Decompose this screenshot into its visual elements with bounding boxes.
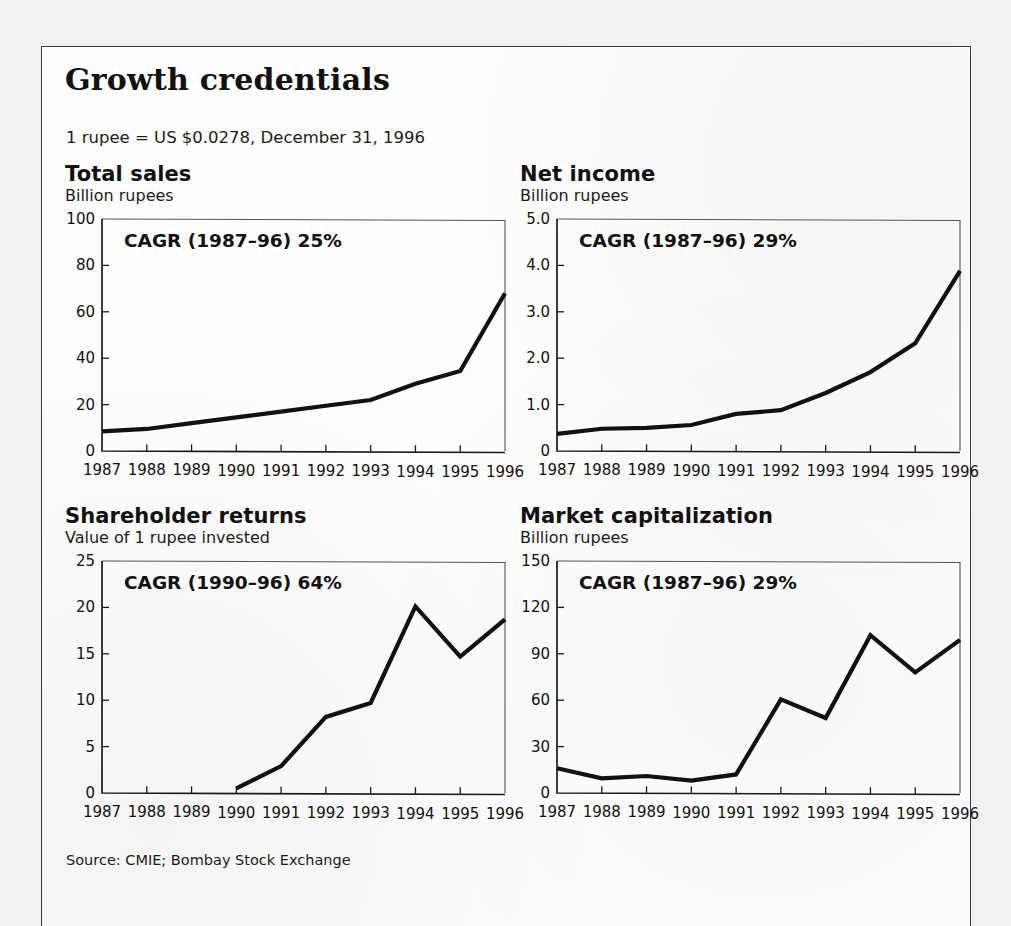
y-tick-label: 15 xyxy=(76,645,95,663)
x-tick-label: 1989 xyxy=(627,462,665,480)
x-tick-label: 1987 xyxy=(538,461,576,479)
x-tick-label: 1989 xyxy=(627,804,665,822)
chart-subtitle-net-income: Billion rupees xyxy=(520,187,982,205)
y-tick-label: 40 xyxy=(76,350,95,368)
chart-title-net-income: Net income xyxy=(520,163,982,185)
x-tick-label: 1991 xyxy=(262,804,300,822)
x-tick-label: 1990 xyxy=(217,804,255,822)
cagr-annotation: CAGR (1987–96) 29% xyxy=(579,230,797,251)
y-tick-label: 0 xyxy=(540,442,550,460)
y-tick-label: 1.0 xyxy=(526,396,550,414)
x-tick-label: 1992 xyxy=(307,805,345,823)
chart-panel-total-sales: Total sales Billion rupees 0204060801001… xyxy=(65,163,527,485)
x-tick-label: 1988 xyxy=(583,804,621,822)
y-tick-label: 20 xyxy=(76,599,95,617)
x-tick-label: 1990 xyxy=(672,804,710,822)
x-tick-label: 1988 xyxy=(128,462,166,480)
source-note: Source: CMIE; Bombay Stock Exchange xyxy=(66,852,351,868)
plot-area-total-sales: 0204060801001987198819891990199119921993… xyxy=(65,211,527,485)
cagr-annotation: CAGR (1987–96) 29% xyxy=(579,572,797,593)
y-tick-label: 4.0 xyxy=(526,257,550,275)
chart-subtitle-shareholder-returns: Value of 1 rupee invested xyxy=(65,529,527,547)
x-tick-label: 1994 xyxy=(396,805,434,823)
data-series-line xyxy=(102,294,505,432)
page-title: Growth credentials xyxy=(65,62,390,97)
x-tick-label: 1996 xyxy=(486,463,524,481)
chart-title-market-capitalization: Market capitalization xyxy=(520,505,982,527)
x-tick-label: 1988 xyxy=(128,804,166,822)
y-tick-label: 0 xyxy=(85,784,95,802)
x-tick-label: 1996 xyxy=(941,805,979,823)
chart-title-shareholder-returns: Shareholder returns xyxy=(65,505,527,527)
y-tick-label: 90 xyxy=(531,645,550,663)
y-tick-label: 60 xyxy=(76,303,95,321)
data-series-line xyxy=(557,271,960,434)
chart-panel-shareholder-returns: Shareholder returns Value of 1 rupee inv… xyxy=(65,505,527,827)
x-tick-label: 1991 xyxy=(717,462,755,480)
y-tick-label: 5.0 xyxy=(526,210,550,228)
x-tick-label: 1991 xyxy=(717,804,755,822)
x-tick-label: 1990 xyxy=(672,462,710,480)
x-tick-label: 1992 xyxy=(762,463,800,481)
x-tick-label: 1990 xyxy=(217,462,255,480)
y-tick-label: 10 xyxy=(76,692,95,710)
x-tick-label: 1996 xyxy=(486,805,524,823)
x-tick-label: 1996 xyxy=(941,463,979,481)
data-series-line xyxy=(236,607,505,789)
y-tick-label: 60 xyxy=(531,692,550,710)
x-tick-label: 1995 xyxy=(441,463,479,481)
cagr-annotation: CAGR (1990–96) 64% xyxy=(124,572,342,593)
y-tick-label: 0 xyxy=(540,784,550,802)
y-tick-label: 3.0 xyxy=(526,303,550,321)
y-tick-label: 150 xyxy=(521,552,550,570)
y-tick-label: 5 xyxy=(85,738,95,756)
chart-subtitle-total-sales: Billion rupees xyxy=(65,187,527,205)
x-tick-label: 1987 xyxy=(83,461,121,479)
x-tick-label: 1994 xyxy=(851,463,889,481)
x-tick-label: 1991 xyxy=(262,462,300,480)
y-tick-label: 120 xyxy=(521,599,550,617)
y-tick-label: 30 xyxy=(531,738,550,756)
x-tick-label: 1987 xyxy=(538,803,576,821)
y-tick-label: 2.0 xyxy=(526,350,550,368)
x-tick-label: 1992 xyxy=(762,805,800,823)
cagr-annotation: CAGR (1987–96) 25% xyxy=(124,230,342,251)
chart-panel-net-income: Net income Billion rupees 01.02.03.04.05… xyxy=(520,163,982,485)
x-tick-label: 1992 xyxy=(307,463,345,481)
y-tick-label: 25 xyxy=(76,552,95,570)
x-tick-label: 1994 xyxy=(851,805,889,823)
y-tick-label: 0 xyxy=(85,442,95,460)
chart-subtitle-market-capitalization: Billion rupees xyxy=(520,529,982,547)
x-tick-label: 1988 xyxy=(583,462,621,480)
y-tick-label: 100 xyxy=(66,210,95,228)
plot-area-market-capitalization: 0306090120150198719881989199019911992199… xyxy=(520,553,982,827)
data-series-line xyxy=(557,636,960,781)
x-tick-label: 1993 xyxy=(352,463,390,481)
x-tick-label: 1993 xyxy=(807,463,845,481)
x-tick-label: 1989 xyxy=(172,804,210,822)
chart-title-total-sales: Total sales xyxy=(65,163,527,185)
exchange-rate-note: 1 rupee = US $0.0278, December 31, 1996 xyxy=(66,128,425,147)
chart-panel-market-capitalization: Market capitalization Billion rupees 030… xyxy=(520,505,982,827)
y-tick-label: 80 xyxy=(76,257,95,275)
x-tick-label: 1995 xyxy=(441,805,479,823)
plot-area-net-income: 01.02.03.04.05.0198719881989199019911992… xyxy=(520,211,982,485)
y-tick-label: 20 xyxy=(76,396,95,414)
x-tick-label: 1995 xyxy=(896,463,934,481)
x-tick-label: 1987 xyxy=(83,803,121,821)
plot-area-shareholder-returns: 0510152025198719881989199019911992199319… xyxy=(65,553,527,827)
x-tick-label: 1994 xyxy=(396,463,434,481)
x-tick-label: 1989 xyxy=(172,462,210,480)
x-tick-label: 1993 xyxy=(352,805,390,823)
x-tick-label: 1995 xyxy=(896,805,934,823)
x-tick-label: 1993 xyxy=(807,805,845,823)
